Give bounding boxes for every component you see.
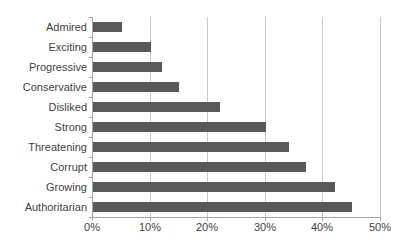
category-axis-tick [89, 137, 92, 138]
category-axis-tick [89, 157, 92, 158]
category-axis-tick [89, 77, 92, 78]
value-tick-label-50%: 50% [369, 221, 391, 233]
plot-area [92, 17, 380, 217]
category-axis-tick [89, 17, 92, 18]
category-label-admired: Admired [0, 17, 87, 37]
bar-corrupt [93, 162, 306, 172]
bar-conservative [93, 82, 179, 92]
bar-chart: AdmiredExcitingProgressiveConservativeDi… [0, 0, 412, 247]
category-axis-labels: AdmiredExcitingProgressiveConservativeDi… [0, 17, 87, 217]
bar-row [93, 197, 380, 217]
bar-row [93, 157, 380, 177]
bar-row [93, 77, 380, 97]
value-axis-line [92, 217, 381, 218]
bar-row [93, 17, 380, 37]
category-label-threatening: Threatening [0, 137, 87, 157]
category-label-conservative: Conservative [0, 77, 87, 97]
category-label-growing: Growing [0, 177, 87, 197]
gridline-50% [380, 17, 381, 217]
category-axis-line [92, 17, 93, 218]
bar-exciting [93, 42, 151, 52]
category-label-authoritarian: Authoritarian [0, 197, 87, 217]
category-label-corrupt: Corrupt [0, 157, 87, 177]
value-tick-label-30%: 30% [254, 221, 276, 233]
bar-row [93, 97, 380, 117]
bar-row [93, 117, 380, 137]
bar-progressive [93, 62, 162, 72]
bar-threatening [93, 142, 289, 152]
value-tick-label-40%: 40% [311, 221, 333, 233]
value-tick-label-20%: 20% [196, 221, 218, 233]
category-axis-tick [89, 177, 92, 178]
category-axis-tick [89, 117, 92, 118]
bar-row [93, 57, 380, 77]
bar-strong [93, 122, 266, 132]
category-axis-tick [89, 97, 92, 98]
category-label-strong: Strong [0, 117, 87, 137]
bar-admired [93, 22, 122, 32]
value-tick-label-0%: 0% [84, 221, 100, 233]
category-axis-tick [89, 37, 92, 38]
category-axis-tick [89, 217, 92, 218]
category-axis-tick [89, 197, 92, 198]
value-tick-label-10%: 10% [139, 221, 161, 233]
value-axis-tick-labels: 0%10%20%30%40%50% [92, 221, 380, 237]
bar-growing [93, 182, 335, 192]
category-axis-tick [89, 57, 92, 58]
bar-authoritarian [93, 202, 352, 212]
bar-row [93, 137, 380, 157]
category-label-disliked: Disliked [0, 97, 87, 117]
bar-row [93, 177, 380, 197]
bar-disliked [93, 102, 220, 112]
category-label-progressive: Progressive [0, 57, 87, 77]
bar-row [93, 37, 380, 57]
category-label-exciting: Exciting [0, 37, 87, 57]
